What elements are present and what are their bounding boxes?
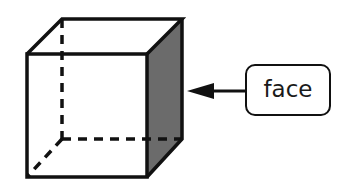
face-label: face (264, 78, 313, 103)
shaded-right-face (147, 19, 182, 177)
hidden-edge-diagonal (27, 139, 62, 177)
face-label-box: face (245, 64, 331, 116)
arrow-head-icon (187, 83, 214, 99)
front-face (27, 54, 147, 177)
